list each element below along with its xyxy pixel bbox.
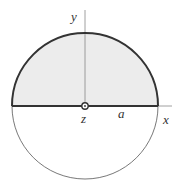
semicircle-diagram: y z a x <box>0 0 183 191</box>
diagram-canvas: y z a x <box>0 0 183 191</box>
z-axis-label: z <box>80 111 86 126</box>
x-axis-label: x <box>162 112 169 127</box>
z-axis-dot <box>84 105 86 107</box>
radius-label: a <box>118 106 125 121</box>
y-axis-label: y <box>69 9 77 24</box>
